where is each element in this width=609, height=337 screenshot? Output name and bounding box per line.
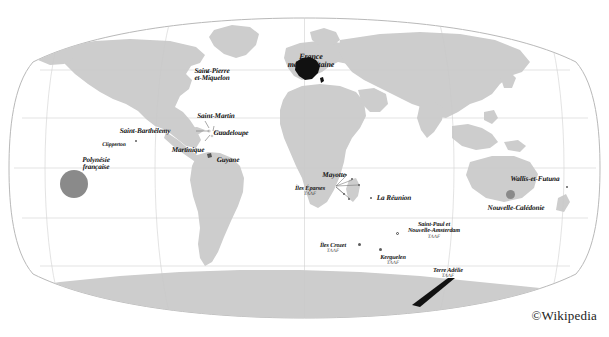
label-terre-adelie: Terre AdélieTAAF <box>433 268 463 279</box>
label-la-reunion: La Réunion <box>377 195 411 202</box>
label-line-1: Martinique <box>172 146 205 154</box>
label-line-2: Nouvelle-Amsterdam <box>408 227 460 234</box>
label-saint-martin: Saint-Martin <box>197 113 235 120</box>
marker-saint-paul-et-nouvelle-amsterdam <box>396 232 399 235</box>
marker-polynesie-francaise <box>60 170 88 198</box>
label-saint-pierre-et-miquelon: Saint-Pierreet-Miquelon <box>194 68 229 83</box>
label-saint-barthelemy: Saint-Barthélemy <box>120 128 171 135</box>
label-line-1: Saint-Barthélemy <box>120 127 171 135</box>
marker-eparses-1 <box>351 178 353 180</box>
marker-eparses-3 <box>358 184 360 186</box>
label-mayotte: Mayotte <box>322 172 345 179</box>
label-line-1: Terre Adélie <box>433 267 463 274</box>
label-line-1: Kerguelen <box>380 254 406 261</box>
label-line-2: française <box>83 163 110 171</box>
label-line-2: métropolitaine <box>288 60 335 69</box>
wikipedia-credit: ©Wikipedia <box>531 308 597 324</box>
label-clipperton: Clipperton <box>102 143 126 149</box>
marker-guyane <box>208 155 210 157</box>
label-iles-eparses: Îles ÉparsesTAAF <box>295 186 325 197</box>
label-saint-paul-et-nouvelle-amsterdam: Saint-Paul etNouvelle-AmsterdamTAAF <box>408 222 460 240</box>
marker-eparses-4 <box>343 193 345 195</box>
label-line-2: et-Miquelon <box>194 74 229 82</box>
marker-la-reunion <box>370 197 372 199</box>
label-sublabel: TAAF <box>380 261 406 266</box>
label-line-1: La Réunion <box>377 194 411 202</box>
label-guadeloupe: Guadeloupe <box>214 130 249 137</box>
label-line-1: Wallis-et-Futuna <box>511 175 560 183</box>
label-line-1: Guadeloupe <box>214 129 249 137</box>
label-martinique: Martinique <box>172 147 205 154</box>
marker-nouvelle-caledonie <box>506 190 515 199</box>
label-line-1: Clipperton <box>102 142 126 148</box>
label-polynesie-francaise: Polynésiefrançaise <box>82 157 109 172</box>
label-nouvelle-caledonie: Nouvelle-Calédonie <box>488 205 545 212</box>
label-wallis-et-futuna: Wallis-et-Futuna <box>511 176 560 183</box>
label-sublabel: TAAF <box>320 249 346 254</box>
marker-clipperton <box>135 140 137 142</box>
label-line-1: Saint-Martin <box>197 112 235 120</box>
label-guyane: Guyane <box>217 157 240 164</box>
label-france-metropolitaine: Francemétropolitaine <box>288 53 335 69</box>
label-line-1: Îles Crozet <box>320 242 346 249</box>
label-line-1: Mayotte <box>322 171 345 179</box>
marker-wallis-et-futuna <box>566 186 568 188</box>
label-line-1: Guyane <box>217 156 240 164</box>
label-kerguelen: KerguelenTAAF <box>380 255 406 266</box>
world-map-figure: Saint-Pierreet-MiquelonFrancemétropolita… <box>0 0 609 337</box>
label-line-1: Îles Éparses <box>295 185 325 192</box>
label-sublabel: TAAF <box>295 192 325 197</box>
label-iles-crozet: Îles CrozetTAAF <box>320 243 346 254</box>
label-sublabel: TAAF <box>433 274 463 279</box>
marker-iles-crozet <box>358 243 361 246</box>
label-line-1: Nouvelle-Calédonie <box>488 204 545 212</box>
marker-eparses-5 <box>348 198 350 200</box>
marker-kerguelen <box>379 248 382 251</box>
label-sublabel: TAAF <box>408 235 460 240</box>
